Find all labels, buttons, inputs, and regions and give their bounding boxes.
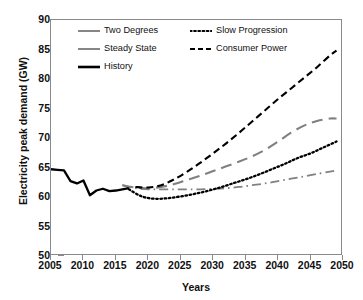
- legend-label: History: [104, 62, 133, 71]
- x-tick-label: 2050: [322, 259, 362, 271]
- legend-item-consumer-power: Consumer Power: [190, 44, 287, 54]
- y-tick-label: 65: [24, 161, 50, 172]
- y-tick-label: 60: [24, 191, 50, 202]
- y-tick-label: 85: [24, 43, 50, 54]
- y-tick-label: 80: [24, 73, 50, 84]
- legend-item-two-degrees: Two Degrees: [78, 26, 158, 36]
- legend-label: Two Degrees: [104, 26, 158, 35]
- legend-label: Steady State: [104, 44, 157, 53]
- legend-swatch-icon: [78, 62, 100, 72]
- series-canvas: [51, 20, 343, 256]
- y-tick-label: 70: [24, 132, 50, 143]
- series-line-two-degrees: [122, 118, 336, 188]
- plot-area: [50, 19, 342, 255]
- y-tick-label: 55: [24, 220, 50, 231]
- legend-item-steady-state: Steady State: [78, 44, 157, 54]
- legend-label: Consumer Power: [216, 44, 287, 53]
- legend-swatch-icon: [190, 44, 212, 54]
- chart-figure: Electricity peak demand (GW) 50556065707…: [0, 0, 363, 300]
- legend-swatch-icon: [190, 26, 212, 36]
- legend-label: Slow Progression: [216, 26, 288, 35]
- y-tick-label: 75: [24, 102, 50, 113]
- legend-swatch-icon: [78, 26, 100, 36]
- x-axis-title: Years: [50, 281, 342, 293]
- series-line-steady-state: [122, 170, 336, 189]
- series-line-consumer-power: [135, 51, 336, 188]
- y-axis-ticks: 505560657075808590: [14, 0, 50, 300]
- legend-swatch-icon: [78, 44, 100, 54]
- legend-item-history: History: [78, 62, 133, 72]
- legend-item-slow-progression: Slow Progression: [190, 26, 288, 36]
- series-line-history: [51, 169, 129, 195]
- y-tick-label: 90: [24, 14, 50, 25]
- series-line-slow-progression: [129, 142, 337, 199]
